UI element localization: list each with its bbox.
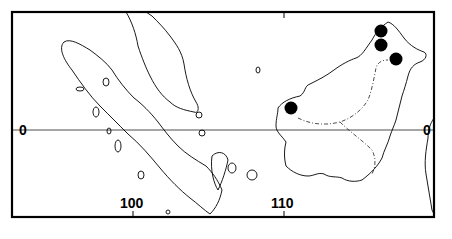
island [228, 163, 236, 173]
island [138, 171, 144, 179]
occurrence-point [390, 53, 403, 66]
distribution-map [0, 0, 452, 239]
equator-label-right: 0 [423, 123, 431, 137]
occurrence-point [375, 39, 388, 52]
longitude-label-110: 110 [271, 196, 294, 210]
malay-peninsula-coast [126, 12, 198, 112]
island [196, 112, 202, 118]
occurrence-point [375, 25, 388, 38]
island [247, 170, 257, 180]
map-frame [12, 12, 434, 217]
borneo-border [298, 60, 388, 124]
island [76, 87, 84, 91]
island [103, 78, 109, 86]
island [199, 130, 205, 136]
longitude-label-100: 100 [120, 196, 143, 210]
island [93, 107, 99, 117]
island [115, 140, 121, 152]
borneo-coast [276, 22, 426, 181]
sumatra-coast [62, 41, 222, 214]
occurrence-point [285, 102, 298, 115]
island [107, 128, 111, 134]
island [166, 210, 170, 214]
equator-label-left: 0 [19, 123, 27, 137]
island [256, 67, 260, 73]
